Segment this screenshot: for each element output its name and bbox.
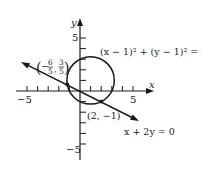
line-equation-label: x + 2y = 0	[124, 126, 175, 137]
y-axis-arrow-icon	[77, 18, 83, 26]
point-left-label: ( − 6 5 , 3 5 )	[36, 58, 69, 76]
x-tick-label-neg5: −5	[17, 94, 32, 105]
y-tick-label-5: 5	[72, 32, 78, 43]
y-tick-label-neg5: −5	[66, 144, 81, 155]
graph-figure: x y −5 5 5 −5 (x − 1)² + (y − 1)² = 5 x …	[0, 0, 202, 170]
line-arrow-right-icon	[130, 115, 139, 122]
svg-text:,: ,	[54, 65, 57, 74]
point-left	[65, 83, 69, 87]
x-axis-label: x	[149, 79, 155, 90]
y-axis-label: y	[70, 17, 77, 28]
x-tick-label-5: 5	[130, 94, 136, 105]
svg-text:5: 5	[48, 67, 53, 76]
point-right-label: (2, −1)	[87, 110, 121, 121]
point-right	[99, 100, 103, 104]
line-arrow-left-icon	[21, 62, 30, 69]
circle-equation-label: (x − 1)² + (y − 1)² = 5	[100, 46, 202, 57]
svg-text:6: 6	[48, 58, 53, 67]
svg-text:): )	[64, 60, 69, 76]
axes	[16, 22, 150, 160]
